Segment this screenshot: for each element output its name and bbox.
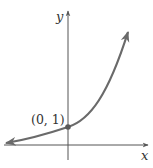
x-axis-label: x — [141, 148, 149, 163]
y-intercept-point — [65, 124, 71, 130]
y-axis-label: y — [55, 9, 64, 24]
exponential-graph: y x (0, 1) — [0, 0, 153, 168]
point-label: (0, 1) — [31, 112, 65, 127]
